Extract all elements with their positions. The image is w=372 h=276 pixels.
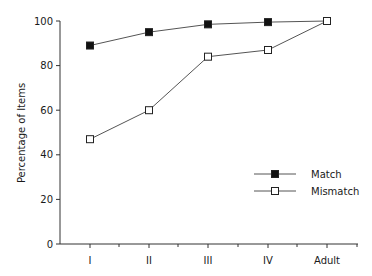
legend: MatchMismatch (254, 169, 359, 197)
x-tick-label: Adult (314, 255, 340, 266)
data-point-mismatch (324, 18, 331, 25)
y-tick-label: 60 (40, 105, 53, 116)
y-axis-title: Percentage of Items (16, 83, 27, 183)
y-tick-label: 100 (34, 16, 53, 27)
y-tick-label: 40 (40, 149, 53, 160)
data-point-mismatch (205, 53, 212, 60)
data-point-mismatch (265, 46, 272, 53)
data-point-mismatch (146, 107, 153, 114)
x-tick-label: IV (263, 255, 273, 266)
data-point-match (87, 42, 94, 49)
y-tick-label: 20 (40, 194, 53, 205)
filled-square-icon (272, 171, 279, 178)
legend-item-mismatch: Mismatch (254, 186, 359, 197)
y-tick-label: 80 (40, 60, 53, 71)
legend-label: Match (311, 169, 342, 180)
axes: 020406080100IIIIIIIVAdult (34, 16, 358, 267)
data-point-match (146, 29, 153, 36)
data-point-match (265, 19, 272, 26)
data-point-match (205, 21, 212, 28)
y-tick-label: 0 (47, 239, 53, 250)
x-tick-label: I (89, 255, 92, 266)
data-point-mismatch (87, 136, 94, 143)
series-line-mismatch (90, 21, 327, 139)
line-chart: 020406080100IIIIIIIVAdult MatchMismatch … (0, 0, 372, 276)
x-tick-label: II (146, 255, 152, 266)
series-group (87, 18, 331, 143)
open-square-icon (272, 188, 279, 195)
legend-label: Mismatch (311, 186, 359, 197)
x-tick-label: III (204, 255, 213, 266)
legend-item-match: Match (254, 169, 342, 180)
